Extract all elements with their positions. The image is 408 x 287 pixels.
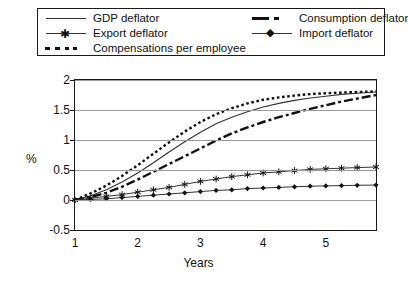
x-axis-label: Years	[0, 256, 397, 270]
diamond-marker	[308, 184, 313, 189]
diamond-marker	[135, 194, 140, 199]
y-tick-mark	[70, 80, 75, 81]
legend-label: Compensations per employee	[93, 42, 246, 55]
dash-dot-line-icon	[250, 12, 294, 25]
legend-entry-compensations-per-employee: Compensations per employee	[44, 41, 246, 56]
diamond-marker	[323, 183, 328, 188]
legend-entry-gdp-deflator: GDP deflator	[44, 11, 159, 26]
x-tick-label: 1	[72, 237, 79, 249]
diamond-marker	[292, 184, 297, 189]
y-tick-mark	[70, 200, 75, 201]
y-tick-mark	[70, 140, 75, 141]
legend-label: Consumption deflator	[299, 12, 408, 25]
legend-entry-consumption-deflator: Consumption deflator	[250, 11, 408, 26]
diamond-marker	[339, 183, 344, 188]
gridline	[75, 170, 376, 171]
gridline	[75, 140, 376, 141]
legend-label: GDP deflator	[93, 12, 159, 25]
legend-label: Import deflator	[299, 27, 373, 40]
legend-entry-import-deflator: ◆ Import deflator	[250, 26, 373, 41]
diamond-marker	[229, 187, 234, 192]
diamond-marker	[182, 190, 187, 195]
x-tick-label: 2	[134, 237, 141, 249]
y-tick-mark	[70, 170, 75, 171]
diamond-marker	[373, 182, 378, 187]
series-layer	[75, 80, 376, 230]
x-tick-label: 5	[322, 237, 329, 249]
gridline	[75, 80, 376, 81]
y-tick-mark	[70, 110, 75, 111]
solid-line-icon	[44, 12, 88, 25]
legend-label: Export deflator	[93, 27, 168, 40]
gridline	[75, 200, 376, 201]
diamond-marker	[198, 189, 203, 194]
dashed-line-icon	[44, 42, 88, 55]
series-line	[75, 91, 376, 200]
diamond-marker	[261, 185, 266, 190]
x-tick-label: 3	[197, 237, 204, 249]
diamond-marker	[151, 193, 156, 198]
diamond-marker-line-icon: ◆	[250, 27, 294, 40]
y-tick-label: 1.5	[53, 104, 70, 116]
series-line	[75, 92, 376, 200]
y-tick-label: 0	[63, 194, 70, 206]
y-tick-label: 1	[63, 134, 70, 146]
y-tick-label: 2	[63, 74, 70, 86]
diamond-marker	[245, 186, 250, 191]
diamond-marker	[355, 183, 360, 188]
diamond-marker	[166, 191, 171, 196]
asterisk-marker-line-icon: ✱	[44, 27, 88, 40]
diamond-marker	[213, 188, 218, 193]
y-tick-mark	[70, 230, 75, 231]
plot-area: -0.500.511.5212345	[74, 79, 377, 231]
y-tick-label: 0.5	[53, 164, 70, 176]
gridline	[75, 110, 376, 111]
legend-entry-export-deflator: ✱ Export deflator	[44, 26, 168, 41]
diamond-marker	[276, 185, 281, 190]
x-tick-label: 4	[260, 237, 267, 249]
y-axis-label: %	[26, 152, 37, 166]
chart-legend: GDP deflator Consumption deflator ✱ Expo…	[37, 8, 385, 56]
y-tick-label: -0.5	[49, 224, 70, 236]
